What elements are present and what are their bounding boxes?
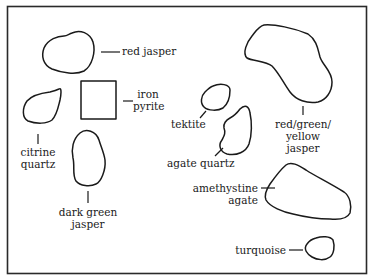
iron-pyrite-outline bbox=[81, 81, 116, 119]
label-turquoise: turquoise bbox=[226, 244, 286, 256]
label-rgy-jasper-line1: red/green/ bbox=[273, 118, 333, 130]
agate-quartz-outline bbox=[220, 106, 251, 154]
citrine-quartz-outline bbox=[23, 89, 61, 123]
label-citrine-quartz-line2: quartz bbox=[18, 158, 58, 170]
label-amethystine-agate-line2: agate bbox=[188, 194, 258, 206]
red-jasper-outline bbox=[43, 31, 94, 73]
label-iron-pyrite-line1: iron bbox=[133, 88, 163, 100]
label-rgy-jasper-line2: yellow bbox=[273, 130, 333, 142]
tektite-outline bbox=[201, 84, 230, 110]
dark-green-jasper-outline bbox=[72, 131, 105, 186]
label-red-jasper: red jasper bbox=[122, 45, 176, 57]
label-iron-pyrite-line2: pyrite bbox=[133, 100, 163, 112]
tektite-leader bbox=[200, 111, 206, 118]
label-tektite: tektite bbox=[171, 118, 206, 130]
label-dark-green-jasper-line2: jasper bbox=[58, 218, 118, 230]
turquoise-outline bbox=[305, 237, 334, 260]
label-citrine-quartz-line1: citrine bbox=[18, 146, 58, 158]
agate-quartz-leader bbox=[215, 148, 223, 156]
label-dark-green-jasper-line1: dark green bbox=[58, 206, 118, 218]
red-green-yellow-jasper-outline bbox=[245, 25, 332, 103]
amethystine-agate-outline bbox=[265, 163, 351, 219]
label-amethystine-agate-line1: amethystine bbox=[188, 182, 258, 194]
label-agate-quartz: agate quartz bbox=[167, 157, 235, 169]
label-rgy-jasper-line3: jasper bbox=[273, 142, 333, 154]
